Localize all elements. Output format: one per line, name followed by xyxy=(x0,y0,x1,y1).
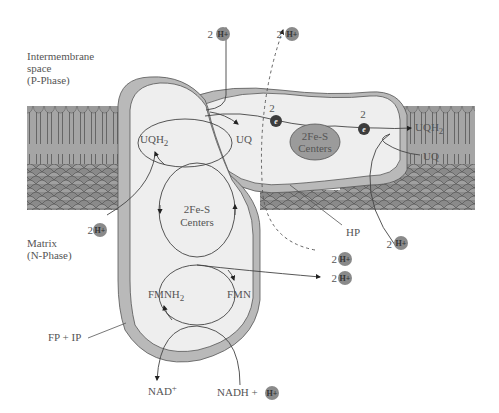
fp-ip-pointer xyxy=(88,323,126,338)
svg-text:Centers: Centers xyxy=(298,142,332,154)
svg-text:Intermembrane: Intermembrane xyxy=(27,50,94,62)
uq-left-label: UQ xyxy=(236,133,252,145)
svg-text:(N-Phase): (N-Phase) xyxy=(27,249,72,262)
complex-i-diagram: Intermembrane space (P-Phase) Matrix (N-… xyxy=(0,0,499,413)
svg-text:H+: H+ xyxy=(340,255,351,264)
proton-badge-matrix-left: 2 H+ xyxy=(88,223,108,237)
svg-text:e: e xyxy=(274,117,278,126)
svg-text:2: 2 xyxy=(208,28,214,40)
svg-text:space: space xyxy=(27,62,52,74)
svg-text:H+: H+ xyxy=(396,239,407,248)
proton-badge-top-left: 2 H+ xyxy=(208,27,231,41)
svg-text:(P-Phase): (P-Phase) xyxy=(27,74,70,87)
proton-badge-fmn-out: 2 H+ xyxy=(332,271,353,285)
nad-label: NAD+ xyxy=(148,383,177,397)
svg-text:H+: H+ xyxy=(95,226,106,235)
svg-text:2: 2 xyxy=(88,224,94,236)
proton-badge-nadh: H+ xyxy=(265,386,279,400)
svg-text:2: 2 xyxy=(277,28,283,40)
svg-text:2: 2 xyxy=(387,238,393,250)
nadh-label: NADH + xyxy=(217,386,258,398)
svg-text:H+: H+ xyxy=(287,30,298,39)
uq-right-label: UQ xyxy=(423,150,439,162)
svg-text:e: e xyxy=(362,125,366,134)
proton-badge-top-dashed: 2 H+ xyxy=(277,27,300,41)
svg-text:2Fe-S: 2Fe-S xyxy=(302,130,328,142)
svg-text:H+: H+ xyxy=(218,30,229,39)
fp-ip-label: FP + IP xyxy=(48,331,81,343)
svg-text:2: 2 xyxy=(332,272,338,284)
fmn-label: FMN xyxy=(227,288,251,300)
intermembrane-space-label: Intermembrane space (P-Phase) xyxy=(27,50,94,87)
svg-text:2: 2 xyxy=(332,253,338,265)
svg-text:H+: H+ xyxy=(267,389,278,398)
fes-peripheral-label: 2Fe-S xyxy=(184,203,210,215)
svg-text:Centers: Centers xyxy=(180,216,214,228)
svg-text:H+: H+ xyxy=(340,274,351,283)
proton-badge-dashed-out: 2 H+ xyxy=(332,252,353,266)
membrane-left xyxy=(27,106,127,210)
hp-label: HP xyxy=(346,226,360,238)
svg-text:2: 2 xyxy=(269,102,275,114)
svg-text:Matrix: Matrix xyxy=(27,237,57,249)
matrix-label: Matrix (N-Phase) xyxy=(27,237,72,262)
svg-text:2: 2 xyxy=(360,108,366,120)
proton-badge-right-hp: 2 H+ xyxy=(387,236,409,250)
